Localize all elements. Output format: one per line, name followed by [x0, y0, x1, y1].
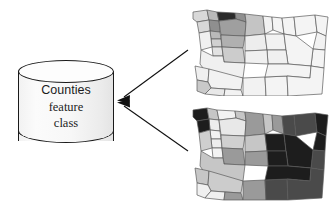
- county-sherman: [263, 114, 273, 134]
- county-baker: [311, 49, 325, 68]
- county-deschutes: [245, 50, 268, 64]
- county-marion: [221, 135, 245, 149]
- county-deschutes: [245, 151, 268, 166]
- datastore-label-line-1: Counties: [18, 82, 114, 99]
- county-washington: [209, 119, 220, 131]
- arrow-from-top-map: [117, 50, 188, 104]
- county-jackson: [224, 192, 243, 200]
- upper-map-svg: [189, 6, 329, 96]
- county-wasco: [245, 112, 265, 136]
- upper-map[interactable]: [189, 6, 329, 96]
- lower-map-counties: [193, 108, 328, 200]
- diagram-canvas: Counties feature class: [0, 0, 331, 206]
- lower-map[interactable]: [189, 103, 329, 201]
- county-clackamas: [219, 118, 246, 136]
- county-linn: [222, 148, 245, 165]
- county-grant: [284, 134, 313, 168]
- county-crook: [267, 50, 288, 64]
- county-clackamas: [219, 19, 246, 36]
- county-morrow: [282, 17, 296, 36]
- county-lincoln: [199, 31, 212, 50]
- county-yamhill: [210, 130, 221, 139]
- county-crook: [267, 151, 288, 166]
- county-wheeler: [265, 134, 286, 151]
- county-wasco: [245, 14, 265, 36]
- county-benton: [212, 148, 223, 158]
- county-lincoln: [199, 130, 212, 151]
- county-lake: [265, 179, 288, 200]
- counties-feature-class-datastore[interactable]: Counties feature class: [18, 60, 116, 152]
- county-jefferson: [245, 34, 267, 51]
- datastore-label-line-2: feature: [18, 99, 114, 116]
- county-baker: [311, 150, 325, 170]
- datastore-label: Counties feature class: [18, 82, 114, 132]
- county-jefferson: [245, 134, 267, 152]
- county-coos: [195, 66, 209, 82]
- county-columbia: [207, 10, 219, 21]
- county-umatilla: [294, 15, 317, 36]
- county-union: [313, 132, 326, 151]
- county-sherman: [263, 16, 273, 34]
- county-morrow: [282, 115, 296, 136]
- county-lake: [265, 76, 288, 96]
- county-benton: [212, 47, 223, 56]
- county-wheeler: [265, 34, 286, 50]
- county-klamath: [243, 77, 266, 96]
- county-grant: [284, 34, 313, 66]
- lower-map-svg: [189, 103, 329, 201]
- upper-map-counties: [193, 10, 328, 96]
- county-jackson: [224, 89, 243, 96]
- county-marion: [221, 35, 245, 48]
- county-polk: [211, 139, 222, 148]
- county-klamath: [243, 180, 266, 200]
- county-umatilla: [294, 113, 317, 136]
- datastore-label-line-3: class: [18, 115, 114, 132]
- county-yamhill: [210, 31, 221, 39]
- arrow-from-bottom-map: [117, 100, 188, 152]
- cylinder-top-ellipse: [18, 60, 114, 83]
- county-linn: [222, 47, 245, 63]
- county-washington: [209, 20, 220, 32]
- county-polk: [211, 39, 222, 47]
- county-coos: [195, 168, 209, 185]
